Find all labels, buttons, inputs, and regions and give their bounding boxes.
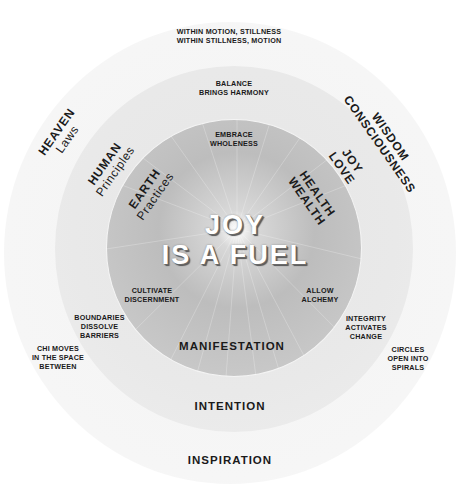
phrase-middle-right: INTEGRITY ACTIVATES CHANGE [336,314,396,341]
phrase-top-outer: WITHIN MOTION, STILLNESS WITHIN STILLNES… [159,27,299,45]
center-title: JOY IS A FUEL [130,212,340,269]
phrase-inner-right: ALLOW ALCHEMY [290,286,350,304]
ring-label-manifestation: MANIFESTATION [164,339,300,353]
phrase-outer-right: CIRCLES OPEN INTO SPIRALS [378,345,438,372]
phrase-top-middle: BALANCE BRINGS HARMONY [184,79,284,97]
phrase-outer-left: CHI MOVES IN THE SPACE BETWEEN [25,344,91,371]
phrase-top-inner: EMBRACE WHOLENESS [194,130,274,148]
phrase-inner-left: CULTIVATE DISCERNMENT [112,286,192,304]
ring-label-inspiration: INSPIRATION [170,453,290,467]
ring-label-intention: INTENTION [180,399,280,413]
phrase-middle-left: BOUNDARIES DISSOLVE BARRIERS [62,313,137,340]
joy-is-a-fuel-diagram: WITHIN MOTION, STILLNESS WITHIN STILLNES… [0,0,458,502]
